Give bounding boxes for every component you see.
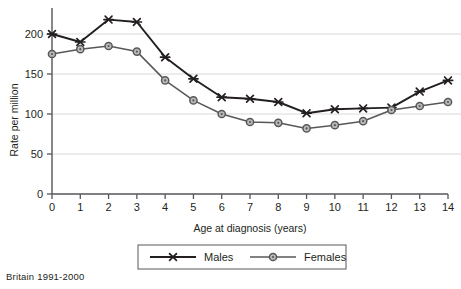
- data-point-center: [447, 101, 449, 103]
- x-axis-title: Age at diagnosis (years): [193, 222, 306, 234]
- y-tick-label: 150: [25, 68, 43, 80]
- x-tick-label: 12: [385, 201, 397, 213]
- chart-figure: 05010015020001234567891011121314Age at d…: [0, 0, 461, 289]
- x-tick-label: 9: [304, 201, 310, 213]
- data-point-center: [334, 124, 336, 126]
- x-tick-label: 11: [357, 201, 368, 213]
- y-axis-title: Rate per million: [8, 83, 20, 156]
- data-point-center: [51, 53, 53, 55]
- series-males: [47, 16, 452, 116]
- x-tick-label: 6: [219, 201, 225, 213]
- x-tick-label: 5: [190, 201, 196, 213]
- line-chart: 05010015020001234567891011121314Age at d…: [0, 0, 461, 289]
- x-tick-label: 8: [275, 201, 281, 213]
- x-axis-ticks: 01234567891011121314: [49, 194, 454, 213]
- data-point-center: [249, 121, 251, 123]
- series-females: [48, 42, 451, 132]
- data-point-center: [419, 105, 421, 107]
- y-tick-label: 100: [25, 108, 43, 120]
- x-tick-label: 4: [162, 201, 168, 213]
- data-point-center: [79, 48, 81, 50]
- series-line: [52, 46, 448, 128]
- legend-item-label: Males: [204, 251, 234, 263]
- data-point-center: [277, 122, 279, 124]
- y-tick-label: 50: [31, 148, 43, 160]
- x-tick-label: 7: [247, 201, 253, 213]
- chart-caption: Britain 1991-2000: [6, 271, 84, 282]
- data-point-center: [362, 120, 364, 122]
- x-tick-label: 10: [329, 201, 341, 213]
- x-tick-label: 14: [442, 201, 454, 213]
- y-tick-label: 200: [25, 28, 43, 40]
- legend-item-label: Females: [304, 251, 347, 263]
- data-point-center: [164, 79, 166, 81]
- chart-legend: MalesFemales: [138, 245, 347, 269]
- data-point-center: [192, 99, 194, 101]
- x-tick-label: 13: [414, 201, 426, 213]
- axes: [52, 8, 448, 194]
- y-tick-label: 0: [37, 188, 43, 200]
- x-tick-label: 3: [134, 201, 140, 213]
- x-tick-label: 2: [106, 201, 112, 213]
- data-point-center: [221, 113, 223, 115]
- data-point-center: [107, 45, 109, 47]
- x-tick-label: 0: [49, 201, 55, 213]
- data-point-center: [305, 127, 307, 129]
- data-point-center: [136, 51, 138, 53]
- data-point-center: [272, 256, 274, 258]
- grid-lines: [52, 34, 461, 154]
- x-tick-label: 1: [77, 201, 83, 213]
- data-point-center: [390, 109, 392, 111]
